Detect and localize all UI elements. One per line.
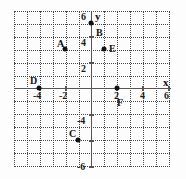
y-axis-tick <box>89 114 94 115</box>
y-axis-label: y <box>95 11 101 22</box>
coordinate-plane-figure: -4 -2 2 4 6 6 4 2 -4 -6 y x A B C D E F <box>0 0 186 179</box>
gridline-horizontal <box>14 50 170 51</box>
gridline-vertical <box>104 11 105 167</box>
gridline-horizontal <box>14 101 170 102</box>
gridline-vertical <box>79 11 80 167</box>
data-point-label-d: D <box>30 76 37 86</box>
data-point-label-e: E <box>109 44 116 54</box>
y-tick-label-2: 2 <box>81 64 86 74</box>
y-tick-label--6: -6 <box>77 162 85 172</box>
data-point-e <box>102 47 107 52</box>
gridline-horizontal <box>14 76 170 77</box>
y-axis-tick <box>89 62 94 63</box>
y-axis-tick <box>89 140 94 141</box>
gridline-vertical <box>156 11 157 167</box>
x-axis-label: x <box>163 77 169 88</box>
data-point-label-b: B <box>96 28 103 38</box>
gridline-vertical <box>130 11 131 167</box>
data-point-b <box>89 21 94 26</box>
gridline-vertical <box>14 11 15 167</box>
data-point-label-a: A <box>57 39 64 49</box>
data-point-d <box>37 86 42 91</box>
y-tick-label-6: 6 <box>81 12 86 22</box>
data-point-f <box>115 86 120 91</box>
data-point-label-c: C <box>69 129 76 139</box>
data-point-label-f: F <box>117 98 123 108</box>
y-axis-tick <box>89 166 94 167</box>
y-tick-label--4: -4 <box>77 116 85 126</box>
gridline-horizontal <box>14 11 170 12</box>
x-tick-label-6: 6 <box>164 91 169 101</box>
gridline-vertical <box>53 11 54 167</box>
gridline-horizontal <box>14 127 170 128</box>
y-axis-tick <box>89 36 94 37</box>
gridline-vertical <box>27 11 28 167</box>
gridline-horizontal <box>14 153 170 154</box>
x-tick-label--4: -4 <box>33 91 41 101</box>
x-tick-label--2: -2 <box>59 91 67 101</box>
y-axis-line <box>91 11 92 168</box>
data-point-c <box>76 138 81 143</box>
x-tick-label-4: 4 <box>140 91 145 101</box>
y-tick-label-4: 4 <box>81 38 86 48</box>
